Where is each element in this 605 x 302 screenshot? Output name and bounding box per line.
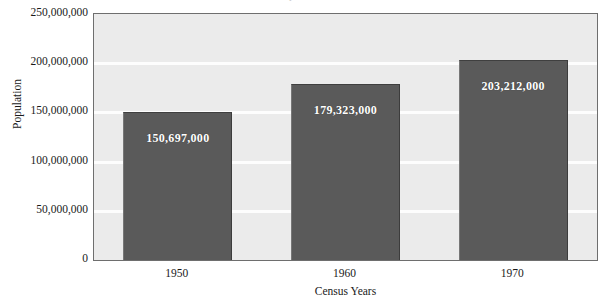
bar: 150,697,000 [123, 112, 232, 260]
bar-value-label: 203,212,000 [460, 79, 567, 94]
x-axis-tick-label: 1960 [305, 266, 385, 280]
y-axis-tick-label: 150,000,000 [12, 105, 88, 117]
y-axis-tick-label: 200,000,000 [12, 56, 88, 68]
cropped-chart-title: Population [0, 0, 605, 6]
x-axis-tick-labels: 195019601970 [93, 266, 598, 282]
population-bar-chart: Population Population 050,000,000100,000… [0, 0, 605, 302]
bar-value-label: 150,697,000 [124, 131, 231, 146]
y-axis-tick-label: 100,000,000 [12, 155, 88, 167]
x-axis-title: Census Years [93, 285, 598, 297]
y-axis-tick-labels: 050,000,000100,000,000150,000,000200,000… [10, 0, 88, 302]
cropped-chart-title-text: Population [277, 0, 329, 1]
y-axis-tick-label: 0 [12, 253, 88, 265]
x-axis-tick-label: 1970 [472, 266, 552, 280]
bar: 179,323,000 [291, 84, 400, 260]
plot-area: 150,697,000179,323,000203,212,000 [93, 13, 598, 261]
x-axis-tick-label: 1950 [137, 266, 217, 280]
bar: 203,212,000 [459, 60, 568, 260]
bar-value-label: 179,323,000 [292, 103, 399, 118]
y-axis-tick-label: 50,000,000 [12, 204, 88, 216]
y-axis-tick-label: 250,000,000 [12, 7, 88, 19]
